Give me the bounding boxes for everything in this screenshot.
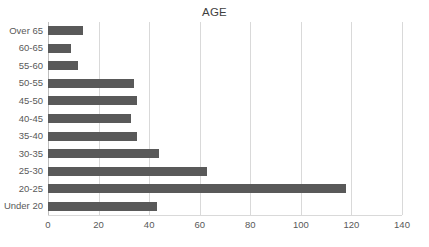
x-axis-tick-label: 140 bbox=[382, 219, 422, 230]
bar bbox=[48, 149, 159, 158]
y-axis-tick-label: 20-25 bbox=[0, 184, 43, 194]
bar bbox=[48, 114, 131, 123]
bar bbox=[48, 96, 137, 105]
x-axis-tick-label: 80 bbox=[230, 219, 270, 230]
bar bbox=[48, 26, 83, 35]
y-axis-tick-label: 25-30 bbox=[0, 166, 43, 176]
bar bbox=[48, 61, 78, 70]
y-axis-tick-label: 40-45 bbox=[0, 114, 43, 124]
gridline bbox=[402, 22, 403, 215]
y-axis-tick-label: 55-60 bbox=[0, 61, 43, 71]
x-axis-line bbox=[48, 215, 402, 216]
y-axis-tick-label: Under 20 bbox=[0, 201, 43, 211]
bar bbox=[48, 79, 134, 88]
y-axis-tick-label: Over 65 bbox=[0, 26, 43, 36]
x-axis-tick-label: 20 bbox=[79, 219, 119, 230]
y-axis-tick-label: 45-50 bbox=[0, 96, 43, 106]
y-axis-tick-label: 30-35 bbox=[0, 149, 43, 159]
bar bbox=[48, 167, 207, 176]
y-axis-tick-label: 50-55 bbox=[0, 78, 43, 88]
bar bbox=[48, 44, 71, 53]
x-axis-tick-label: 40 bbox=[129, 219, 169, 230]
x-axis-tick-label: 0 bbox=[28, 219, 68, 230]
x-axis-tick-label: 120 bbox=[331, 219, 371, 230]
bar bbox=[48, 202, 157, 211]
chart-title: AGE bbox=[0, 6, 429, 18]
gridline bbox=[351, 22, 352, 215]
bar bbox=[48, 132, 137, 141]
y-axis-tick-label: 60-65 bbox=[0, 43, 43, 53]
x-axis-tick-label: 100 bbox=[281, 219, 321, 230]
plot-area bbox=[48, 22, 402, 215]
x-axis-tick-label: 60 bbox=[180, 219, 220, 230]
bar-chart: AGE Under 2020-2525-3030-3535-4040-4545-… bbox=[0, 0, 429, 247]
bar bbox=[48, 184, 346, 193]
y-axis-tick-label: 35-40 bbox=[0, 131, 43, 141]
